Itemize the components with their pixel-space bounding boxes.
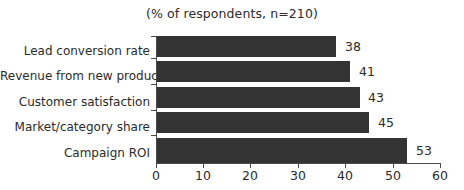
y-axis-tick [151, 58, 157, 59]
y-axis-tick [151, 84, 157, 85]
bar-value-label: 41 [359, 66, 375, 79]
bar[interactable] [156, 36, 336, 57]
bar-value-label: 43 [368, 92, 384, 105]
category-label: Campaign ROI [0, 147, 150, 159]
y-axis-tick [151, 36, 157, 37]
bar-value-label: 38 [345, 41, 361, 54]
bar-value-label: 53 [416, 145, 432, 158]
x-axis-tick-label: 30 [290, 170, 306, 183]
y-axis-tick [151, 135, 157, 136]
bar[interactable] [156, 87, 360, 108]
x-axis-tick-label: 20 [242, 170, 258, 183]
x-axis-tick-label: 0 [152, 170, 160, 183]
category-label: Market/category share [0, 121, 150, 133]
bar-value-label: 45 [378, 117, 394, 130]
plot-area [156, 36, 440, 163]
y-axis-tick [151, 110, 157, 111]
x-axis-tick-label: 60 [432, 170, 448, 183]
category-label: Customer satisfaction [0, 96, 150, 108]
x-axis-tick-label: 10 [195, 170, 211, 183]
category-axis-labels: Lead conversion rate Revenue from new pr… [0, 36, 150, 163]
bar[interactable] [156, 112, 369, 133]
x-axis-tick-label: 40 [337, 170, 353, 183]
bar[interactable] [156, 61, 350, 82]
y-axis-line [156, 36, 157, 163]
bar[interactable] [156, 138, 407, 163]
chart-title: (% of respondents, n=210) [0, 6, 464, 21]
x-axis-tick-label: 50 [385, 170, 401, 183]
bar-chart: (% of respondents, n=210) Lead conversio… [0, 0, 464, 190]
category-label: Revenue from new products [0, 70, 150, 82]
category-label: Lead conversion rate [0, 45, 150, 57]
